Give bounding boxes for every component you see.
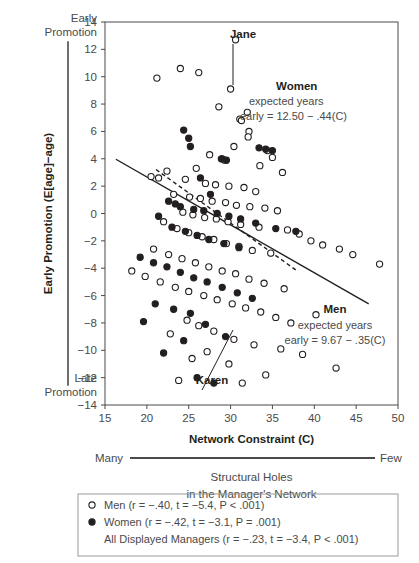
data-point-women (140, 318, 146, 324)
data-point-women (249, 295, 255, 301)
data-point-men (251, 342, 257, 348)
data-point-men (129, 268, 135, 274)
data-point-men (211, 328, 217, 334)
y-tick-label: −2 (84, 235, 97, 247)
y-tick-label: 12 (84, 43, 97, 55)
y-bottom-label-line2: Promotion (45, 386, 97, 398)
data-point-women (166, 198, 172, 204)
data-point-women (171, 306, 177, 312)
data-point-men (269, 154, 275, 160)
y-tick-label: −8 (84, 317, 97, 329)
y-tick-label: 10 (84, 71, 97, 83)
data-point-men (182, 176, 188, 182)
chart-canvas: 152025303540455014121086420−2−4−6−8−10−1… (0, 0, 419, 563)
data-point-men (281, 286, 287, 292)
data-point-men (197, 195, 203, 201)
data-point-men (196, 323, 202, 329)
legend-entry-0: Men (r = −.40, t = −5.4, P < .001) (104, 499, 264, 511)
data-point-women (177, 269, 183, 275)
data-point-men (253, 189, 259, 195)
data-point-men (167, 331, 173, 337)
data-point-men (161, 219, 167, 225)
data-point-women (181, 338, 187, 344)
data-point-men (176, 377, 182, 383)
data-point-women (207, 191, 213, 197)
data-point-men (164, 168, 170, 174)
data-point-men (249, 247, 255, 253)
data-point-men (320, 242, 326, 248)
data-point-men (233, 202, 239, 208)
data-point-men (333, 365, 339, 371)
data-point-men (243, 305, 249, 311)
x-tick-label: 30 (224, 412, 237, 424)
x-tick-label: 45 (350, 412, 363, 424)
data-point-men (216, 104, 222, 110)
annotation-label-karen: Karen (196, 374, 229, 386)
data-point-men (222, 199, 228, 205)
data-point-women (263, 146, 269, 152)
data-point-men (154, 75, 160, 81)
men-fit-label-line2: early = 9.67 − .35(C) (285, 334, 386, 346)
x-sub-caption-line1: Structural Holes (211, 471, 293, 483)
data-point-men (202, 215, 208, 221)
data-point-men (247, 204, 253, 210)
data-point-men (193, 165, 199, 171)
women-fit-label-head: Women (276, 80, 317, 92)
data-point-men (336, 246, 342, 252)
data-point-men (274, 208, 280, 214)
y-tick-label: −10 (77, 344, 97, 356)
data-point-women (238, 216, 244, 222)
data-point-men (258, 309, 264, 315)
data-point-men (179, 256, 185, 262)
data-point-men (214, 297, 220, 303)
men-fit-label-line1: expected years (298, 319, 373, 331)
data-point-men (202, 180, 208, 186)
data-point-women (201, 208, 207, 214)
x-axis-title: Network Constraint (C) (189, 433, 314, 445)
data-point-men (226, 183, 232, 189)
data-point-men (219, 268, 225, 274)
data-point-women (273, 225, 279, 231)
data-point-men (279, 169, 285, 175)
scatter-plot-figure: 152025303540455014121086420−2−4−6−8−10−1… (0, 0, 419, 563)
data-point-men (268, 250, 274, 256)
data-point-women (150, 260, 156, 266)
y-tick-label: 0 (91, 208, 97, 220)
data-point-women (214, 210, 220, 216)
data-point-men (239, 380, 245, 386)
y-top-label-line2: Promotion (45, 26, 97, 38)
data-point-men (189, 355, 195, 361)
legend-entry-2: All Displayed Managers (r = −.23, t = −3… (104, 533, 358, 545)
data-point-men (177, 65, 183, 71)
data-point-women (181, 127, 187, 133)
annotation-label-jane: Jane (230, 28, 256, 40)
x-tick-label: 15 (99, 412, 112, 424)
data-point-women (206, 236, 212, 242)
data-point-women (236, 245, 242, 251)
x-tick-label: 20 (140, 412, 153, 424)
data-point-men (284, 227, 290, 233)
legend-marker-women (89, 519, 95, 525)
women-fit-label-line2: early = 12.50 − .44(C) (240, 110, 347, 122)
y-tick-label: 8 (91, 98, 97, 110)
data-point-women (226, 213, 232, 219)
data-point-men (376, 261, 382, 267)
data-point-men (263, 372, 269, 378)
data-point-men (207, 152, 213, 158)
women-fit-label-line1: expected years (249, 95, 324, 107)
data-point-women (191, 275, 197, 281)
data-point-women (177, 204, 183, 210)
data-point-women (256, 145, 262, 151)
data-point-men (196, 70, 202, 76)
data-point-men (155, 175, 161, 181)
data-point-women (169, 224, 175, 230)
data-point-men (212, 182, 218, 188)
x-right-label: Few (380, 452, 402, 464)
data-point-men (231, 143, 237, 149)
y-tick-label: −14 (77, 399, 97, 411)
men-fit-label-head: Men (324, 303, 347, 315)
data-point-women (202, 321, 208, 327)
data-point-men (241, 184, 247, 190)
data-point-men (299, 351, 305, 357)
data-point-women (204, 279, 210, 285)
